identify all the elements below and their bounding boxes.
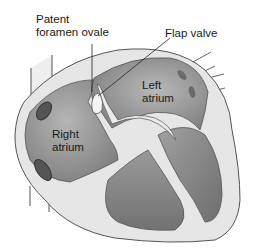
pfo-line1: Patent [36,13,109,26]
label-flap-valve: Flap valve [165,27,217,40]
label-right-atrium: Right atrium [52,128,84,154]
label-patent-foramen-ovale: Patent foramen ovale [36,13,109,39]
pfo-line2: foramen ovale [36,26,109,39]
label-left-atrium: Left atrium [142,79,174,105]
